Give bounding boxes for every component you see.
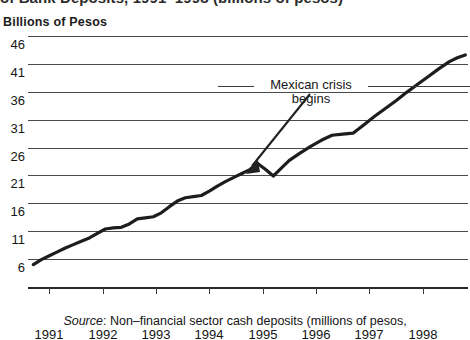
annotation-arrow-icon [238,92,318,178]
y-axis-tick-label: 11 [12,233,26,246]
annotation-leader-line-right [368,86,470,87]
x-axis-line [28,287,468,289]
y-axis-unit-label: Billions of Pesos [3,15,107,29]
y-axis-tick-label: 46 [11,38,25,51]
y-axis-tick-label: 31 [11,122,25,135]
x-axis-tick [49,287,50,294]
x-axis-tick [316,287,317,294]
x-axis-tick [156,287,157,294]
y-axis-tick-label: 26 [11,150,25,163]
y-axis-tick-label: 36 [11,94,25,107]
source-note: Source: Non–financial sector cash deposi… [0,314,470,340]
x-axis-tick [103,287,104,294]
source-text: : Non–financial sector cash deposits (mi… [103,314,407,328]
x-axis-tick [209,287,210,294]
y-axis-tick-label: 6 [18,261,25,274]
annotation-leader-line-left [218,86,254,87]
x-axis-tick [423,287,424,294]
figure-title: of Bank Deposits, 1991–1998 (billions of… [0,0,470,7]
y-axis-tick-label: 21 [11,177,25,190]
y-axis-tick-label: 16 [11,205,25,218]
annotation-line-1: Mexican crisis [255,78,367,92]
x-axis-tick [263,287,264,294]
source-label: Source [63,314,103,328]
y-axis-tick-label: 41 [11,66,25,79]
x-axis-tick [369,287,370,294]
